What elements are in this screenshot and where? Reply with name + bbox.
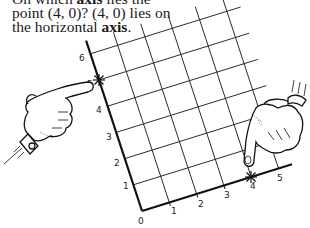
x-label-4: 4	[250, 181, 256, 191]
left-pointing-hand-icon	[4, 82, 93, 164]
y-label-2: 2	[114, 158, 120, 168]
x-label-1: 1	[171, 206, 177, 216]
x-label-2: 2	[198, 199, 204, 209]
x-label-5: 5	[277, 173, 283, 183]
y-label-1: 1	[123, 181, 129, 191]
y-axis	[86, 41, 142, 211]
coordinate-grid-diagram: 0 1 2 3 4 5 1 2 3 4 5 6	[0, 0, 310, 228]
x-label-3: 3	[224, 190, 230, 200]
y-label-6: 6	[79, 53, 85, 63]
star-marker-y-axis-point-0-5	[93, 74, 105, 86]
y-label-4: 4	[96, 105, 102, 115]
origin-label: 0	[138, 216, 144, 226]
y-label-3: 3	[106, 132, 112, 142]
grid-lines	[90, 0, 283, 203]
